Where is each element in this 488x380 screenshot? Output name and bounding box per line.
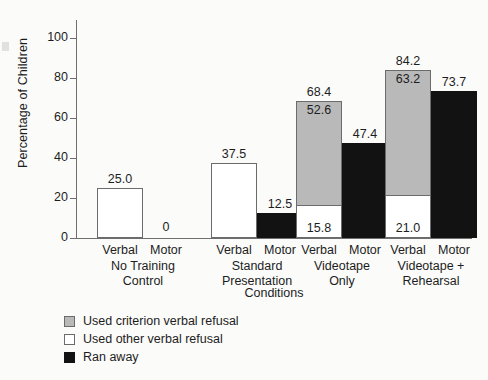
legend-item-other-verbal: Used other verbal refusal xyxy=(64,331,239,347)
category-sub-label-motor-4: Motor xyxy=(431,243,477,257)
legend-label: Used criterion verbal refusal xyxy=(83,314,239,328)
bar-segment-label-other: 21.0 xyxy=(386,221,430,235)
bar-segment-criterion-verbal: 84.2 63.2 xyxy=(385,70,431,196)
bar-segment-ran-away: 73.7 xyxy=(431,91,477,238)
bar-videotape-rehearsal-motor: 73.7 xyxy=(431,91,477,238)
bar-segment-other-verbal: 15.8 xyxy=(296,206,342,238)
bar-segment-label-other: 15.8 xyxy=(297,221,341,235)
category-sub-label-verbal-3: Verbal xyxy=(296,243,342,257)
legend-swatch-icon-white xyxy=(64,334,75,345)
bar-segment-other-verbal: 21.0 xyxy=(385,196,431,238)
category-sub-label-verbal-2: Verbal xyxy=(211,243,257,257)
chart-legend: Used criterion verbal refusal Used other… xyxy=(64,313,239,367)
y-tick-100 xyxy=(70,38,76,39)
legend-item-ran-away: Ran away xyxy=(64,349,239,365)
y-tick-40 xyxy=(70,158,76,159)
bar-total-label: 73.7 xyxy=(432,75,476,89)
y-tick-60 xyxy=(70,118,76,119)
y-axis-title: Percentage of Children xyxy=(16,18,30,188)
bar-total-label: 84.2 xyxy=(386,54,430,68)
bar-segment-label-criterion: 63.2 xyxy=(386,72,430,86)
y-tick-label-20: 20 xyxy=(22,190,68,204)
category-group-line1: Videotape + xyxy=(375,259,487,274)
category-sub-label-motor-3: Motor xyxy=(342,243,388,257)
bar-segment-other-verbal: 25.0 xyxy=(97,188,143,238)
category-group-line1: No Training xyxy=(87,259,199,274)
y-axis-line xyxy=(76,20,77,239)
bar-total-label: 0 xyxy=(143,220,189,234)
bar-segment-other-verbal: 37.5 xyxy=(211,163,257,238)
category-group-line2: Control xyxy=(87,274,199,289)
bar-segment-ran-away: 47.4 xyxy=(342,143,388,238)
bar-total-label: 25.0 xyxy=(98,172,142,186)
category-sub-label-motor-1: Motor xyxy=(143,243,189,257)
category-sub-label-verbal-4: Verbal xyxy=(385,243,431,257)
x-axis-line xyxy=(76,238,472,239)
legend-item-criterion-verbal: Used criterion verbal refusal xyxy=(64,313,239,329)
category-sub-label-verbal-1: Verbal xyxy=(97,243,143,257)
bar-total-label: 37.5 xyxy=(212,147,256,161)
y-tick-80 xyxy=(70,78,76,79)
chart-figure: 100 80 60 40 20 0 Percentage of Children… xyxy=(0,0,488,380)
bar-total-label: 68.4 xyxy=(297,85,341,99)
bar-no-training-verbal: 25.0 xyxy=(97,188,143,238)
bar-videotape-verbal: 68.4 52.6 15.8 xyxy=(296,101,342,238)
legend-swatch-icon-gray xyxy=(64,316,75,327)
y-tick-label-0: 0 xyxy=(22,230,68,244)
y-tick-20 xyxy=(70,198,76,199)
bar-segment-criterion-verbal: 68.4 52.6 xyxy=(296,101,342,206)
bar-videotape-rehearsal-verbal: 84.2 63.2 21.0 xyxy=(385,70,431,238)
category-group-label-4: Videotape + Rehearsal xyxy=(375,259,487,289)
category-group-line2: Rehearsal xyxy=(375,274,487,289)
legend-swatch-icon-black xyxy=(64,352,75,363)
legend-label: Used other verbal refusal xyxy=(83,332,223,346)
bar-standard-verbal: 37.5 xyxy=(211,163,257,238)
category-group-label-1: No Training Control xyxy=(87,259,199,289)
bar-total-label: 47.4 xyxy=(343,127,387,141)
bar-segment-label-criterion: 52.6 xyxy=(297,103,341,117)
y-tick-0 xyxy=(70,238,76,239)
legend-label: Ran away xyxy=(83,350,139,364)
bar-videotape-motor: 47.4 xyxy=(342,143,388,238)
